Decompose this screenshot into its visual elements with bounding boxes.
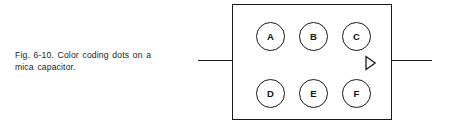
color-dot-c: C (342, 22, 371, 51)
color-dot-d: D (256, 79, 285, 108)
color-dot-a-label: A (267, 31, 274, 41)
caption-line-2: mica capacitor. (15, 62, 200, 74)
figure-6-10: Fig. 6-10. Color coding dots on a mica c… (0, 0, 451, 126)
caption-line-1: Fig. 6-10. Color coding dots on a (15, 50, 200, 62)
figure-caption: Fig. 6-10. Color coding dots on a mica c… (15, 50, 200, 73)
color-dot-e: E (299, 79, 328, 108)
color-dot-e-label: E (310, 88, 316, 98)
right-triangle-icon (364, 55, 377, 71)
mica-capacitor-body: A B C D E F (232, 4, 392, 120)
color-dot-b: B (299, 22, 328, 51)
color-dot-a: A (256, 22, 285, 51)
color-dot-f: F (342, 79, 371, 108)
lead-wire-left-icon (198, 60, 233, 61)
color-dot-f-label: F (354, 88, 360, 98)
lead-wire-right-icon (391, 60, 432, 61)
color-dot-b-label: B (310, 31, 317, 41)
color-dot-c-label: C (353, 31, 360, 41)
color-dot-d-label: D (267, 88, 274, 98)
